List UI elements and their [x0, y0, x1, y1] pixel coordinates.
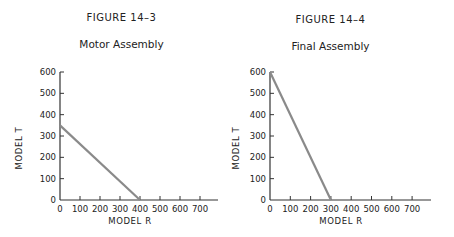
- x-tick-label: 700: [404, 204, 420, 214]
- y-tick-label: 400: [250, 110, 266, 120]
- x-tick-label: 0: [267, 204, 272, 214]
- y-tick-label: 600: [40, 67, 56, 77]
- x-tick-label: 500: [363, 204, 379, 214]
- x-tick-label: 600: [172, 204, 188, 214]
- x-tick-label: 300: [112, 204, 128, 214]
- y-tick-label: 500: [40, 88, 56, 98]
- y-tick-label: 100: [250, 174, 266, 184]
- y-tick-label: 200: [250, 152, 266, 162]
- y-axis-label: MODEL T: [14, 126, 24, 169]
- x-tick-label: 700: [192, 204, 208, 214]
- y-axis-label: MODEL T: [231, 126, 241, 169]
- x-tick-label: 200: [302, 204, 318, 214]
- constraint-line: [270, 72, 331, 200]
- x-tick-label: 400: [132, 204, 148, 214]
- x-tick-label: 400: [343, 204, 359, 214]
- x-axis-label: MODEL R: [108, 216, 151, 226]
- constraint-line: [60, 125, 140, 200]
- chart-motor-assembly: 0100200300400500600010020030040050060070…: [0, 0, 227, 237]
- x-tick-label: 600: [384, 204, 400, 214]
- chart-final-assembly: 0100200300400500600010020030040050060070…: [227, 0, 454, 237]
- y-tick-label: 0: [261, 195, 266, 205]
- y-tick-label: 200: [40, 152, 56, 162]
- y-tick-label: 0: [51, 195, 56, 205]
- y-tick-label: 500: [250, 88, 266, 98]
- x-axis-label: MODEL R: [319, 216, 362, 226]
- x-tick-label: 100: [72, 204, 88, 214]
- y-tick-label: 600: [250, 67, 266, 77]
- figure-14-3-panel: FIGURE 14–3 Motor Assembly 0100200300400…: [0, 0, 227, 237]
- x-tick-label: 200: [92, 204, 108, 214]
- x-tick-label: 300: [323, 204, 339, 214]
- y-tick-label: 400: [40, 110, 56, 120]
- figure-14-4-panel: FIGURE 14–4 Final Assembly 0100200300400…: [227, 0, 454, 237]
- y-tick-label: 300: [40, 131, 56, 141]
- x-tick-label: 0: [57, 204, 62, 214]
- x-tick-label: 500: [152, 204, 168, 214]
- y-tick-label: 100: [40, 174, 56, 184]
- y-tick-label: 300: [250, 131, 266, 141]
- x-tick-label: 100: [282, 204, 298, 214]
